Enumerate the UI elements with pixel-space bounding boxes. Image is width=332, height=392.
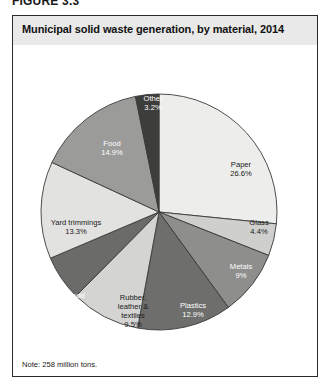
pie-slice-label: Other3.2% xyxy=(144,94,163,112)
pie-slice-label: Plastics12.9% xyxy=(180,301,206,319)
pie-slice-label: Food14.9% xyxy=(101,139,123,157)
chart-note: Note: 258 million tons. xyxy=(22,360,97,369)
chart-title-band: Municipal solid waste generation, by mat… xyxy=(13,16,317,45)
pie-slice-label: Glass4.4% xyxy=(249,218,269,236)
pie-slice-label: Wood6.2% xyxy=(65,291,85,309)
pie-chart-area: Paper26.6%Glass4.4%Metals9%Plastics12.9%… xyxy=(13,45,317,347)
figure-box: Municipal solid waste generation, by mat… xyxy=(12,15,318,377)
pie-slice-label: Paper26.6% xyxy=(230,160,252,178)
pie-chart-svg: Paper26.6%Glass4.4%Metals9%Plastics12.9%… xyxy=(13,45,317,347)
pie-slice[interactable] xyxy=(159,94,277,224)
figure-page: FIGURE 3.3 Municipal solid waste generat… xyxy=(0,0,332,392)
chart-title: Municipal solid waste generation, by mat… xyxy=(22,23,284,35)
figure-number-label: FIGURE 3.3 xyxy=(12,0,79,8)
